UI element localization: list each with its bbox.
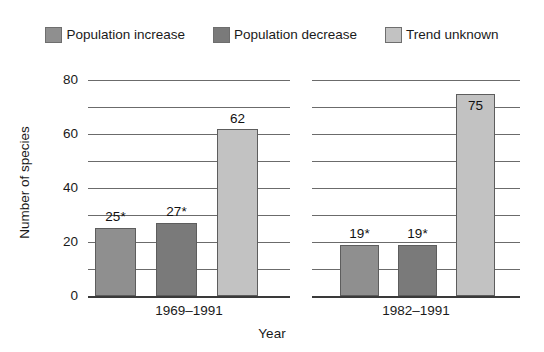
gridline-80-left <box>88 80 290 81</box>
bar-panel2-population-decrease <box>398 245 437 296</box>
bar-value-label-panel2-trend-unknown: 75 <box>456 99 495 113</box>
bar-value-label-panel1-trend-unknown: 62 <box>217 112 258 126</box>
y-tick-label-60: 60 <box>44 127 78 141</box>
gridline-50-left <box>88 161 290 162</box>
bar-chart-figure: Population increase Population decrease … <box>0 0 544 352</box>
x-axis-line-panel1 <box>88 296 290 298</box>
y-tick-label-20: 20 <box>44 235 78 249</box>
gridline-80-right <box>312 80 520 81</box>
bar-value-label-panel2-population-increase: 19* <box>340 227 379 241</box>
y-axis-title: Number of species <box>17 73 32 293</box>
gridline-40-left <box>88 188 290 189</box>
x-tick-label-1982-1991: 1982–1991 <box>312 304 520 318</box>
y-tick-label-80: 80 <box>44 73 78 87</box>
y-tick-label-40: 40 <box>44 181 78 195</box>
bar-panel1-trend-unknown <box>217 129 258 296</box>
plot-area: Number of species 80 60 40 20 0 <box>0 0 544 352</box>
bar-panel1-population-decrease <box>156 223 197 296</box>
gridline-60-left <box>88 134 290 135</box>
bar-panel1-population-increase <box>95 228 136 296</box>
bar-panel2-trend-unknown <box>456 94 495 296</box>
bar-value-label-panel1-population-decrease: 27* <box>156 205 197 219</box>
y-tick-label-0: 0 <box>44 289 78 303</box>
x-axis-line-panel2 <box>312 296 520 298</box>
gridline-70-left <box>88 107 290 108</box>
bar-value-label-panel2-population-decrease: 19* <box>398 227 437 241</box>
bar-value-label-panel1-population-increase: 25* <box>95 210 136 224</box>
bar-panel2-population-increase <box>340 245 379 296</box>
x-axis-title: Year <box>0 326 544 341</box>
x-tick-label-1969-1991: 1969–1991 <box>88 304 290 318</box>
